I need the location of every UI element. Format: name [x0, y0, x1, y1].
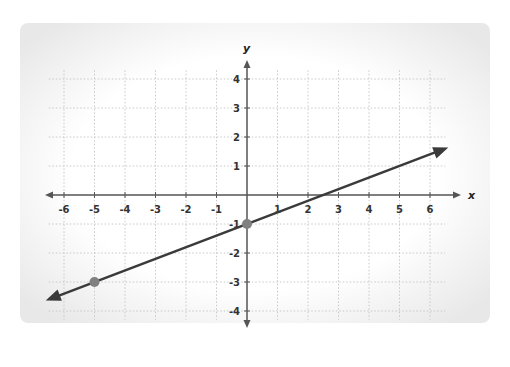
- x-tick-label: 6: [427, 204, 434, 215]
- y-tick-label: -2: [229, 248, 240, 259]
- y-axis-bottom-arrow-icon: [244, 320, 251, 328]
- coordinate-plane: xy -6-5-4-3-2-11234564321-1-2-3-4: [0, 0, 510, 367]
- y-tick-label: -4: [229, 306, 240, 317]
- x-tick-label: -5: [89, 204, 100, 215]
- y-tick-label: 3: [233, 103, 240, 114]
- x-tick-label: 4: [366, 204, 373, 215]
- y-tick-label: -3: [229, 277, 240, 288]
- panel-background: [20, 23, 490, 323]
- x-tick-label: -3: [150, 204, 161, 215]
- y-axis-label: y: [243, 42, 251, 55]
- x-tick-label: 3: [335, 204, 342, 215]
- x-tick-label: 2: [305, 204, 312, 215]
- x-tick-label: -1: [211, 204, 222, 215]
- x-tick-label: -2: [180, 204, 191, 215]
- x-tick-label: -6: [58, 204, 69, 215]
- y-tick-label: 4: [233, 74, 240, 85]
- x-tick-label: 5: [396, 204, 403, 215]
- data-point: [242, 219, 252, 229]
- y-tick-label: 2: [233, 132, 240, 143]
- x-tick-label: -4: [119, 204, 130, 215]
- y-tick-label: 1: [233, 161, 240, 172]
- x-axis-label: x: [467, 189, 476, 202]
- data-point: [90, 277, 100, 287]
